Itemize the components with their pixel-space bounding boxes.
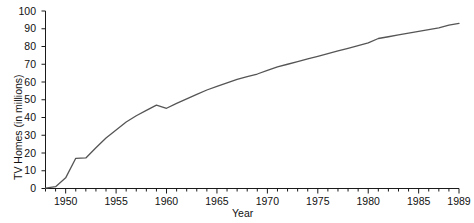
y-tick-label: 0 (0, 183, 36, 194)
y-tick-label: 60 (0, 77, 36, 88)
y-tick-label: 70 (0, 59, 36, 70)
x-tick-label: 1989 (438, 196, 474, 207)
y-tick-label: 40 (0, 112, 36, 123)
y-tick-label: 100 (0, 6, 36, 17)
x-tick-label: 1960 (146, 196, 188, 207)
y-tick-label: 80 (0, 41, 36, 52)
x-tick-label: 1955 (95, 196, 137, 207)
x-tick-label: 1965 (196, 196, 238, 207)
x-tick-label: 1980 (347, 196, 389, 207)
tv-homes-line-chart: TV Homes (in millions) Year 010203040506… (0, 0, 474, 223)
x-tick-label: 1975 (297, 196, 339, 207)
y-tick-label: 50 (0, 94, 36, 105)
x-axis-ticks (46, 189, 460, 194)
x-tick-label: 1970 (246, 196, 288, 207)
y-axis-ticks (42, 11, 46, 189)
x-tick-label: 1950 (45, 196, 87, 207)
y-tick-label: 20 (0, 148, 36, 159)
axes (46, 11, 460, 189)
y-tick-label: 90 (0, 23, 36, 34)
x-tick-label: 1985 (398, 196, 440, 207)
data-series-line (46, 23, 460, 188)
y-tick-label: 10 (0, 165, 36, 176)
y-tick-label: 30 (0, 130, 36, 141)
plot-area (0, 0, 474, 223)
